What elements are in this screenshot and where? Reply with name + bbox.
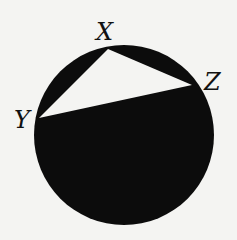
label-y: Y bbox=[14, 106, 32, 134]
diagram-svg: X Y Z bbox=[0, 0, 237, 240]
diagram-canvas: X Y Z bbox=[0, 0, 237, 240]
label-z: Z bbox=[203, 68, 222, 96]
label-x: X bbox=[94, 18, 114, 46]
